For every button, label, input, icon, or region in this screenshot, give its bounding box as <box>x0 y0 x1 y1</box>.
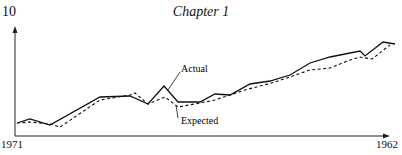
actual-leader-line <box>168 72 180 90</box>
y-axis-arrow-icon <box>13 26 18 33</box>
annotation-actual: Actual <box>181 63 208 74</box>
expected-leader-line <box>176 105 178 118</box>
line-chart: Actual Expected <box>0 0 402 155</box>
x-start-label: 1971 <box>1 138 23 150</box>
series-actual-line <box>17 42 395 125</box>
x-end-label: 1962 <box>376 138 398 150</box>
annotation-expected: Expected <box>181 115 218 126</box>
